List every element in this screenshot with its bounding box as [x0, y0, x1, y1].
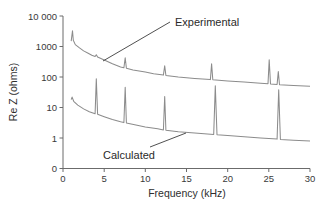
- impedance-chart: Re Z (ohms) 10 000 1000 100 10 1 0 0 5 1…: [0, 0, 327, 208]
- calculated-label: Calculated: [103, 149, 155, 161]
- y-tick-label: 10: [46, 102, 57, 113]
- x-axis-title: Frequency (kHz): [148, 187, 226, 199]
- experimental-label: Experimental: [175, 16, 239, 28]
- x-tick-labels: 0 5 10 15 20 25 30: [60, 173, 315, 184]
- y-axis-title: Re Z (ohms): [7, 63, 19, 121]
- x-tick-label: 0: [60, 173, 65, 184]
- x-tick-label: 5: [102, 173, 107, 184]
- calculated-curve: [71, 79, 310, 141]
- calculated-leader-line: [150, 133, 186, 147]
- y-tick-label: 1000: [36, 41, 57, 52]
- x-tick-label: 30: [305, 173, 316, 184]
- x-tick-label: 25: [264, 173, 275, 184]
- experimental-leader-line: [103, 22, 170, 61]
- x-tick-label: 15: [181, 173, 192, 184]
- y-tick-label: 100: [41, 72, 57, 83]
- x-tick-label: 10: [140, 173, 151, 184]
- y-tick-labels: 10 000 1000 100 10 1 0: [28, 11, 57, 174]
- y-tick-label: 0: [52, 163, 57, 174]
- y-tick-label: 1: [52, 133, 57, 144]
- x-tick-label: 20: [222, 173, 233, 184]
- y-tick-label: 10 000: [28, 11, 57, 22]
